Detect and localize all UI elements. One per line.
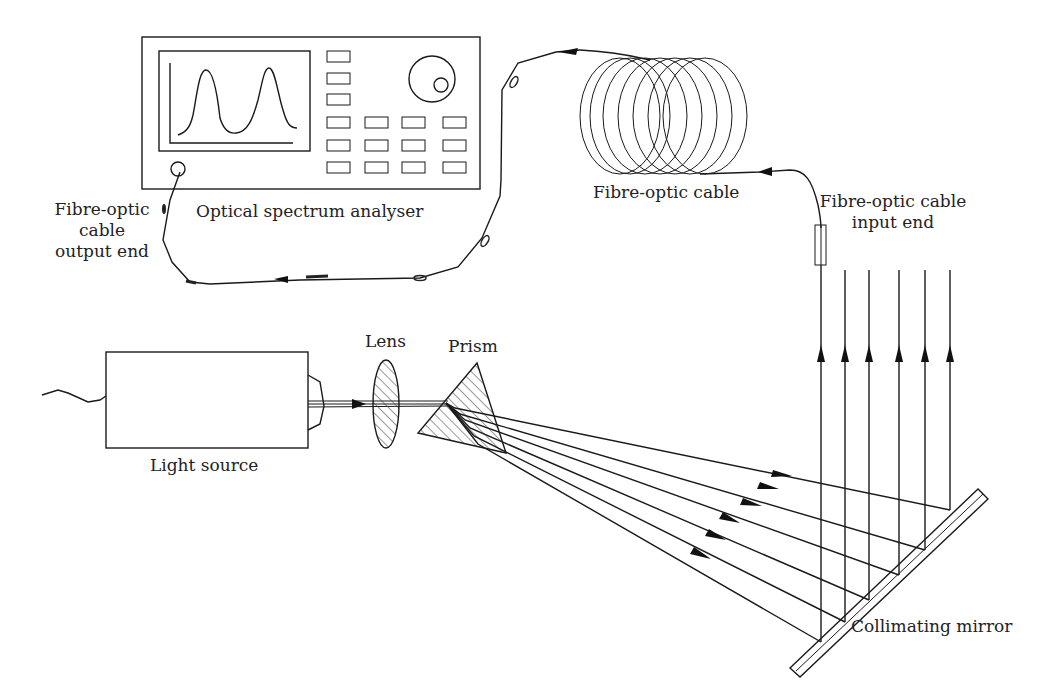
fibre-input-end-label-line1: Fibre-optic cable (818, 191, 968, 212)
osa-knob (409, 56, 455, 102)
prism-label: Prism (448, 336, 498, 357)
light-source-label: Light source (150, 455, 258, 476)
light-source (42, 352, 324, 448)
fibre-output-end-label-line2: cable (46, 220, 158, 241)
osa-screen (159, 51, 310, 151)
collimated-beams (817, 265, 954, 642)
osa-label: Optical spectrum analyser (196, 201, 423, 222)
osa-buttons (327, 51, 466, 173)
optical-spectrum-analyser (142, 37, 480, 189)
diagram-canvas: Optical spectrum analyser Fibre-optic ca… (0, 0, 1047, 693)
prism (418, 363, 506, 453)
fibre-input-end-label-line2: input end (818, 212, 968, 233)
mirror-label: Collimating mirror (851, 616, 1012, 637)
collimating-mirror (790, 489, 988, 677)
fibre-output-end-label-line3: output end (46, 241, 158, 262)
fibre-output-end-label: Fibre-optic cable output end (46, 199, 158, 262)
fibre-coil-label: Fibre-optic cable (593, 182, 739, 203)
lens-label: Lens (365, 331, 406, 352)
osa-input-port (171, 162, 185, 176)
fibre-return-path (162, 48, 580, 284)
lens (373, 360, 399, 448)
fibre-input-end-label: Fibre-optic cable input end (818, 191, 968, 233)
fibre-output-end-label-line1: Fibre-optic (46, 199, 158, 220)
